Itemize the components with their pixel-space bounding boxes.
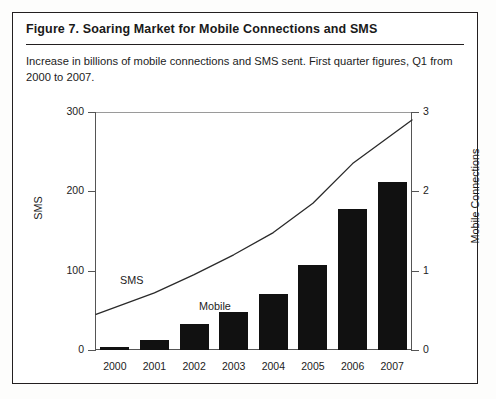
x-axis-label-2007: 2007 xyxy=(368,360,416,372)
chart-plot-area: 300 200 100 0 SMS 3 2 1 0 Mobile Connect… xyxy=(0,0,496,399)
line-series-mobile xyxy=(0,0,496,399)
figure-container: Figure 7. Soaring Market for Mobile Conn… xyxy=(0,0,496,399)
series-annotation-sms: SMS xyxy=(120,274,143,286)
series-annotation-mobile: Mobile xyxy=(199,300,231,312)
